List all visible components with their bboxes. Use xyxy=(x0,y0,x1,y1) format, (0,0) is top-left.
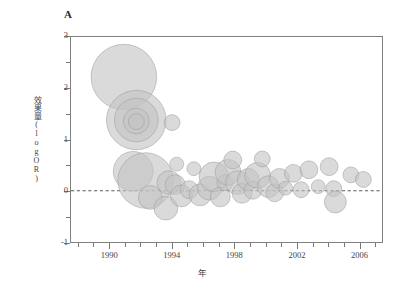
bubble-marker xyxy=(224,151,242,169)
x-axis-tick-label: 2002 xyxy=(277,251,317,260)
bubble-marker xyxy=(355,172,371,188)
x-axis-minor-tick xyxy=(328,243,329,247)
bubble-marker xyxy=(293,182,309,198)
x-axis-tick-label: 1994 xyxy=(152,251,192,260)
x-axis-minor-tick xyxy=(156,243,157,247)
y-axis-minor-tick xyxy=(66,62,70,63)
x-axis-tick xyxy=(297,243,298,249)
x-axis-minor-tick xyxy=(266,243,267,247)
y-axis-tick-label: -1 xyxy=(42,238,68,247)
x-axis-minor-tick xyxy=(78,243,79,247)
bubble-marker xyxy=(170,157,184,171)
y-axis-title: 效果量(logOR) xyxy=(26,96,40,183)
plot-area xyxy=(70,36,383,243)
bubble-marker xyxy=(164,115,180,131)
bubble-marker xyxy=(324,191,346,213)
x-axis-minor-tick xyxy=(203,243,204,247)
x-axis-tick xyxy=(172,243,173,249)
x-axis-tick-label: 1990 xyxy=(89,251,129,260)
x-axis-minor-tick xyxy=(281,243,282,247)
bubble-layer xyxy=(71,37,382,242)
y-axis-tick-label: 1 xyxy=(42,135,68,144)
x-axis-minor-tick xyxy=(344,243,345,247)
bubble-marker xyxy=(128,114,144,130)
x-axis-tick-label: 1998 xyxy=(214,251,254,260)
y-axis-tick-label: 0 xyxy=(42,186,68,195)
x-axis-minor-tick xyxy=(140,243,141,247)
panel-label: A xyxy=(64,8,72,20)
y-axis-minor-tick xyxy=(66,114,70,115)
x-axis-minor-tick xyxy=(219,243,220,247)
y-axis-minor-tick xyxy=(66,165,70,166)
x-axis-minor-tick xyxy=(93,243,94,247)
bubble-marker xyxy=(254,151,270,167)
x-axis-minor-tick xyxy=(187,243,188,247)
bubble-marker xyxy=(300,161,318,179)
bubble-marker xyxy=(320,158,338,176)
y-axis-tick-label: 2 xyxy=(42,83,68,92)
y-axis-minor-tick xyxy=(66,217,70,218)
bubble-marker xyxy=(311,180,325,194)
x-axis-minor-tick xyxy=(250,243,251,247)
x-axis-minor-tick xyxy=(313,243,314,247)
bubble-marker xyxy=(279,181,293,195)
x-axis-tick xyxy=(234,243,235,249)
x-axis-tick-label: 2006 xyxy=(340,251,380,260)
y-axis-tick-label: 3 xyxy=(42,31,68,40)
x-axis-tick xyxy=(360,243,361,249)
bubble-chart-figure: A -1012319901994199820022006 效果量(logOR) … xyxy=(0,0,404,290)
x-axis-tick xyxy=(109,243,110,249)
x-axis-title: 年 xyxy=(0,266,404,278)
x-axis-minor-tick xyxy=(125,243,126,247)
x-axis-minor-tick xyxy=(375,243,376,247)
bubble-marker xyxy=(187,162,201,176)
bubble-marker xyxy=(284,164,302,182)
